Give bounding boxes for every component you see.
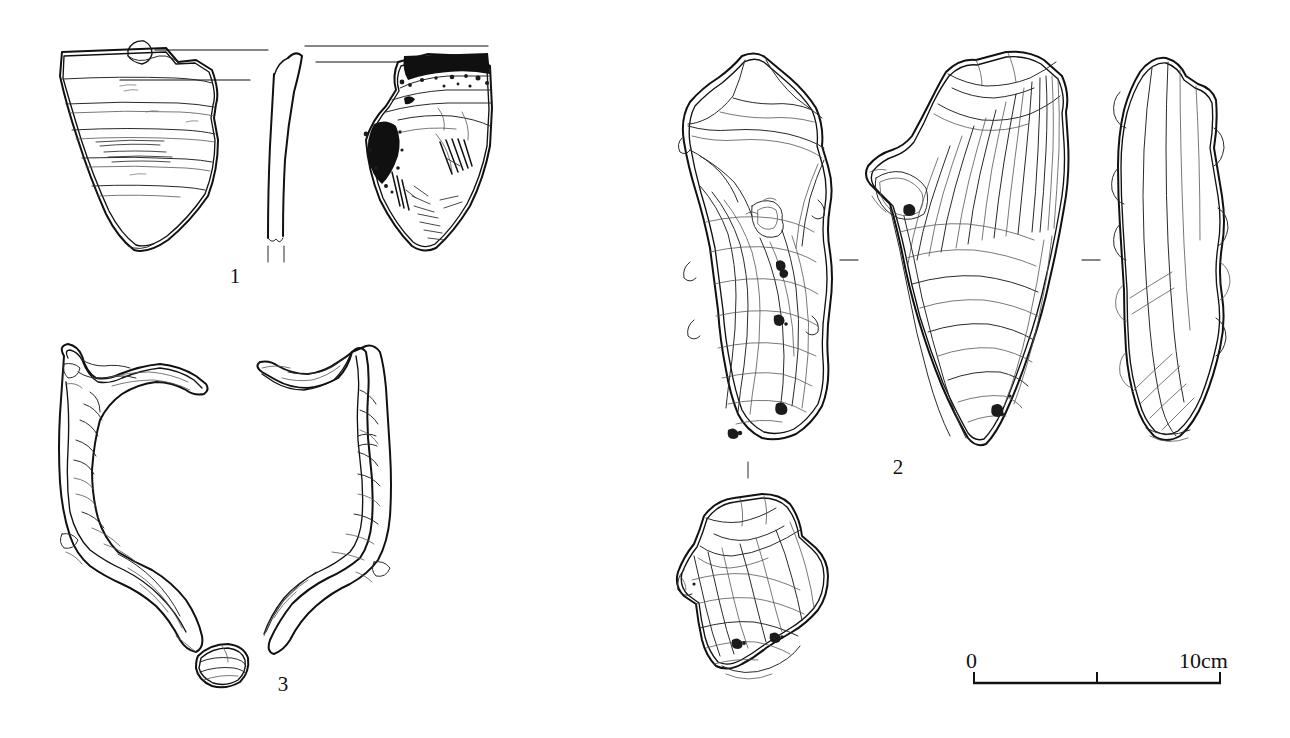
- scale-end-label: 10cm: [1179, 648, 1228, 673]
- artifact-plate: 1: [0, 0, 1290, 738]
- item-2-label: 2: [893, 455, 904, 479]
- plate-background: [0, 0, 1290, 738]
- figure-canvas: 1: [0, 0, 1290, 738]
- item-3-label: 3: [278, 672, 289, 696]
- scale-start-label: 0: [966, 648, 977, 673]
- item-1-label: 1: [230, 264, 241, 288]
